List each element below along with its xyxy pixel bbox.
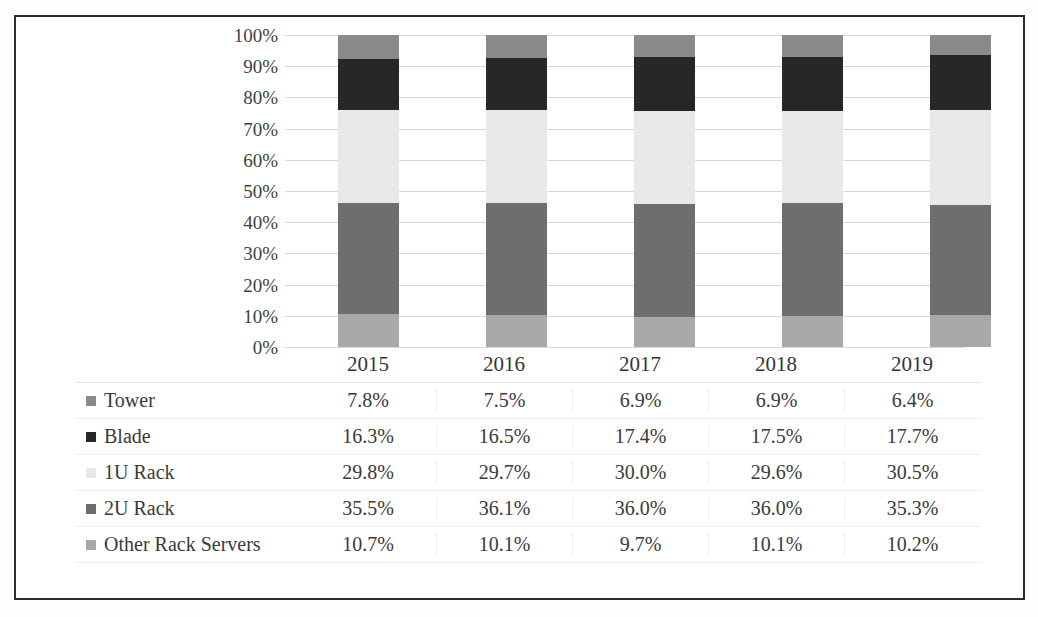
table-cell-value: 10.1%: [436, 533, 572, 556]
legend-item-label: Other Rack Servers: [104, 533, 261, 556]
table-header-year: 2019: [844, 352, 980, 377]
table-cell-value: 7.5%: [436, 389, 572, 412]
bar-segment: [930, 205, 991, 315]
table-header-year: 2017: [572, 352, 708, 377]
bar-segment: [338, 314, 399, 347]
table-header-row: 20152016201720182019: [76, 347, 981, 383]
y-axis-tick: 30%: [196, 244, 278, 263]
legend-swatch-icon: [86, 468, 96, 478]
legend-item: Other Rack Servers: [76, 533, 300, 556]
legend-swatch-icon: [86, 396, 96, 406]
y-axis-tick: 20%: [196, 276, 278, 295]
table-cell-value: 29.7%: [436, 461, 572, 484]
table-row: 1U Rack29.8%29.7%30.0%29.6%30.5%: [76, 455, 981, 491]
table-cell-value: 7.8%: [300, 389, 436, 412]
bar-column: [486, 35, 547, 347]
table-cell-value: 6.9%: [708, 389, 844, 412]
y-axis-tick: 100%: [196, 26, 278, 45]
table-cell-value: 30.0%: [572, 461, 708, 484]
y-axis-tick: 50%: [196, 182, 278, 201]
bar-segment: [782, 316, 843, 347]
table-cell-value: 30.5%: [844, 461, 980, 484]
bar-segment: [338, 35, 399, 59]
table-cell-value: 17.7%: [844, 425, 980, 448]
plot-area: [285, 35, 965, 347]
bar-segment: [486, 35, 547, 58]
table-cell-value: 29.6%: [708, 461, 844, 484]
figure-frame: 100%90%80%70%60%50%40%30%20%10%0% 201520…: [14, 15, 1025, 600]
table-cell-value: 29.8%: [300, 461, 436, 484]
legend-swatch-icon: [86, 432, 96, 442]
figure-page: 100%90%80%70%60%50%40%30%20%10%0% 201520…: [0, 0, 1038, 617]
y-axis-tick: 60%: [196, 151, 278, 170]
bar-column: [338, 35, 399, 347]
table-cell-value: 10.7%: [300, 533, 436, 556]
table-cell-value: 16.5%: [436, 425, 572, 448]
table-header-year: 2015: [300, 352, 436, 377]
bar-segment: [782, 57, 843, 112]
table-cell-value: 6.4%: [844, 389, 980, 412]
bar-column: [930, 35, 991, 347]
legend-swatch-icon: [86, 504, 96, 514]
legend-swatch-icon: [86, 540, 96, 550]
bar-segment: [782, 111, 843, 203]
table-row: 2U Rack35.5%36.1%36.0%36.0%35.3%: [76, 491, 981, 527]
bar-segment: [486, 203, 547, 316]
legend-item: 2U Rack: [76, 497, 300, 520]
bar-segment: [634, 317, 695, 347]
legend-item-label: Blade: [104, 425, 151, 448]
legend-item-label: Tower: [104, 389, 155, 412]
table-cell-value: 10.1%: [708, 533, 844, 556]
y-axis-tick: 40%: [196, 213, 278, 232]
legend-item: Blade: [76, 425, 300, 448]
bar-segment: [930, 55, 991, 110]
y-axis-tick: 80%: [196, 88, 278, 107]
table-header-year: 2016: [436, 352, 572, 377]
bar-segment: [634, 35, 695, 57]
table-cell-value: 16.3%: [300, 425, 436, 448]
data-table: 20152016201720182019Tower7.8%7.5%6.9%6.9…: [76, 347, 981, 563]
bar-segment: [634, 57, 695, 111]
bar-segment: [634, 111, 695, 205]
table-cell-value: 35.3%: [844, 497, 980, 520]
bar-segment: [486, 110, 547, 203]
bar-segment: [930, 110, 991, 205]
table-cell-value: 36.0%: [572, 497, 708, 520]
table-header-year: 2018: [708, 352, 844, 377]
y-axis-tick: 10%: [196, 307, 278, 326]
y-axis-tick: 90%: [196, 57, 278, 76]
bar-segment: [338, 203, 399, 314]
bar-segment: [634, 204, 695, 316]
bar-segment: [486, 58, 547, 109]
bar-segment: [338, 59, 399, 110]
table-cell-value: 9.7%: [572, 533, 708, 556]
table-cell-value: 6.9%: [572, 389, 708, 412]
y-axis: 100%90%80%70%60%50%40%30%20%10%0%: [196, 27, 278, 355]
table-cell-value: 17.4%: [572, 425, 708, 448]
bar-segment: [782, 203, 843, 315]
table-cell-value: 36.1%: [436, 497, 572, 520]
bar-column: [634, 35, 695, 347]
table-cell-value: 35.5%: [300, 497, 436, 520]
bar-segment: [930, 35, 991, 55]
table-row: Tower7.8%7.5%6.9%6.9%6.4%: [76, 383, 981, 419]
bar-segment: [782, 35, 843, 57]
legend-item: 1U Rack: [76, 461, 300, 484]
legend-item-label: 2U Rack: [104, 497, 175, 520]
table-cell-value: 36.0%: [708, 497, 844, 520]
legend-item: Tower: [76, 389, 300, 412]
bar-segment: [486, 315, 547, 347]
table-row: Other Rack Servers10.7%10.1%9.7%10.1%10.…: [76, 527, 981, 563]
y-axis-tick: 70%: [196, 120, 278, 139]
stacked-bar-chart: [285, 35, 965, 347]
bar-segment: [930, 315, 991, 347]
bar-column: [782, 35, 843, 347]
legend-item-label: 1U Rack: [104, 461, 175, 484]
bar-segment: [338, 110, 399, 203]
table-cell-value: 17.5%: [708, 425, 844, 448]
table-cell-value: 10.2%: [844, 533, 980, 556]
table-row: Blade16.3%16.5%17.4%17.5%17.7%: [76, 419, 981, 455]
